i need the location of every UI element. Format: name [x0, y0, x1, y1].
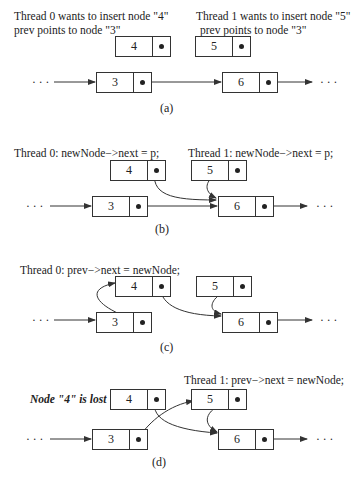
node-3: 3 [92, 429, 148, 450]
ellipsis-right: · · · [320, 76, 337, 89]
node-5: 5 [191, 389, 247, 410]
caption-a: (a) [160, 101, 173, 116]
node-4: 4 [115, 36, 171, 57]
thread1-step-b: Thread 1: newNode−>next = p; [188, 147, 333, 160]
thread1-step-d: Thread 1: prev−>next = newNode; [184, 374, 344, 387]
node-6: 6 [218, 429, 274, 450]
ellipsis-right: · · · [316, 200, 333, 213]
node-5: 5 [191, 160, 247, 181]
pointer-dot-icon [256, 430, 273, 449]
pointer-dot-icon [130, 197, 147, 216]
pointer-dot-icon [134, 313, 151, 332]
thread0-prev-label: prev points to node "3" [14, 24, 121, 37]
pointer-dot-icon [260, 313, 277, 332]
node-3: 3 [96, 312, 152, 333]
node-5: 5 [195, 36, 251, 57]
ellipsis-right: · · · [320, 314, 337, 327]
caption-b: (b) [155, 222, 169, 237]
pointer-dot-icon [229, 390, 246, 409]
pointer-dot-icon [148, 390, 165, 409]
pointer-dot-icon [148, 161, 165, 180]
pointer-dot-icon [153, 277, 170, 296]
node-4: 4 [110, 389, 166, 410]
pointer-dot-icon [233, 37, 250, 56]
caption-d: (d) [152, 455, 166, 470]
pointer-dot-icon [229, 161, 246, 180]
node-4: 4 [110, 160, 166, 181]
pointer-dot-icon [153, 37, 170, 56]
pointer-dot-icon [256, 197, 273, 216]
node-6: 6 [218, 196, 274, 217]
thread0-step-b: Thread 0: newNode−>next = p; [14, 147, 159, 160]
ellipsis-right: · · · [316, 433, 333, 446]
node-6: 6 [222, 72, 278, 93]
pointer-dot-icon [130, 430, 147, 449]
ellipsis-left: · · · [32, 76, 49, 89]
node-5: 5 [196, 276, 252, 297]
thread1-label: Thread 1 wants to insert node "5" [196, 10, 350, 23]
node-4: 4 [115, 276, 171, 297]
arrows-layer [0, 0, 357, 479]
node-3: 3 [96, 72, 152, 93]
node-lost-label: Node "4" is lost [30, 393, 106, 406]
pointer-dot-icon [234, 277, 251, 296]
node-3: 3 [92, 196, 148, 217]
ellipsis-left: · · · [26, 433, 43, 446]
ellipsis-left: · · · [26, 200, 43, 213]
pointer-dot-icon [260, 73, 277, 92]
pointer-dot-icon [134, 73, 151, 92]
node-6: 6 [222, 312, 278, 333]
caption-c: (c) [160, 340, 173, 355]
ellipsis-left: · · · [32, 314, 49, 327]
thread0-label: Thread 0 wants to insert node "4" [14, 10, 168, 23]
